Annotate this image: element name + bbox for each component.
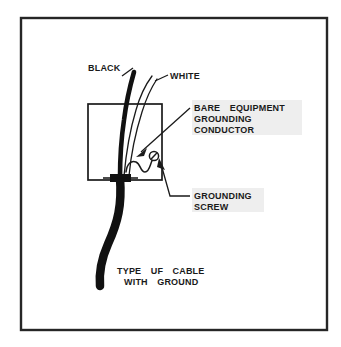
caption-line2: WITH GROUND — [124, 277, 199, 287]
caption-line1: TYPE UF CABLE — [117, 266, 205, 276]
diagram-canvas: BLACK WHITE BARE EQUIPMENT GROUNDING CON… — [0, 0, 341, 347]
label-grounding-screw-line2: SCREW — [194, 202, 229, 212]
label-grounding-screw-line1: GROUNDING — [194, 191, 252, 201]
label-white: WHITE — [170, 71, 200, 81]
label-black: BLACK — [88, 63, 121, 73]
label-bare-equipment-line1: BARE EQUIPMENT — [194, 103, 285, 113]
label-bare-equipment-line3: CONDUCTOR — [194, 125, 254, 135]
wiring-diagram-figure: BLACK WHITE BARE EQUIPMENT GROUNDING CON… — [0, 0, 341, 347]
label-bare-equipment-line2: GROUNDING — [194, 114, 252, 124]
